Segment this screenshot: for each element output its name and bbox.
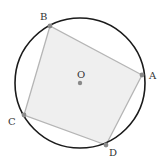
vertex-point-b: [48, 24, 53, 29]
label-o: O: [77, 69, 85, 80]
quadrilateral-abcd: [24, 26, 142, 145]
vertex-point-d: [104, 143, 109, 148]
label-a: A: [148, 70, 157, 81]
vertex-point-c: [22, 113, 27, 118]
label-c: C: [8, 116, 16, 127]
label-b: B: [40, 11, 47, 22]
vertex-point-a: [140, 73, 145, 78]
circle-quadrilateral-figure: O A B C D: [0, 0, 165, 163]
label-d: D: [109, 147, 117, 158]
diagram-canvas: O A B C D: [0, 0, 165, 163]
center-point-o: [78, 81, 82, 85]
